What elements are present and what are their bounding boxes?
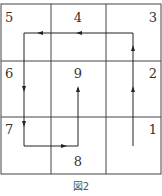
arrow-down-icon xyxy=(22,86,26,92)
cell-label-3: 3 xyxy=(149,10,157,25)
arrow-right-icon xyxy=(61,144,67,148)
arrow-up-icon xyxy=(131,45,135,51)
cell-label-8: 8 xyxy=(74,154,82,169)
arrow-left-icon xyxy=(76,31,82,35)
cell-label-1: 1 xyxy=(149,122,157,137)
cell-label-4: 4 xyxy=(74,10,82,25)
cell-label-6: 6 xyxy=(5,66,13,81)
figure-caption: 図2 xyxy=(0,178,162,193)
cell-label-7: 7 xyxy=(5,122,13,137)
arrow-up-icon xyxy=(131,86,135,92)
arrow-up-icon xyxy=(76,86,80,92)
number-grid-diagram: 5 4 3 6 9 2 7 8 1 xyxy=(0,0,162,176)
cell-label-2: 2 xyxy=(149,66,157,81)
arrow-down-icon xyxy=(22,121,26,127)
arrow-left-icon xyxy=(37,31,43,35)
cell-label-5: 5 xyxy=(5,10,13,25)
cell-label-9: 9 xyxy=(74,66,82,81)
